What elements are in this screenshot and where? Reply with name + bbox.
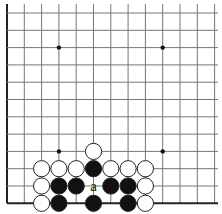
point-label-a: a [90,178,97,194]
black-stone [68,178,84,194]
star-point-icon [57,149,61,153]
point-labels: a [90,178,97,194]
white-stone [120,161,136,177]
go-board: a [0,0,222,214]
black-stone [51,195,67,211]
black-stone [120,178,136,194]
white-stone [103,161,119,177]
white-stone [137,178,153,194]
star-point-icon [161,45,165,49]
white-stone [34,161,50,177]
black-stone [85,161,101,177]
white-stone [137,161,153,177]
black-stone [120,195,136,211]
star-point-icon [57,45,61,49]
star-point-icon [161,149,165,153]
black-stone [103,178,119,194]
white-stone [68,161,84,177]
white-stone [34,195,50,211]
white-stone [85,143,101,159]
white-stone [34,178,50,194]
white-stone [51,161,67,177]
black-stone [85,195,101,211]
black-stone [51,178,67,194]
white-stone [137,195,153,211]
